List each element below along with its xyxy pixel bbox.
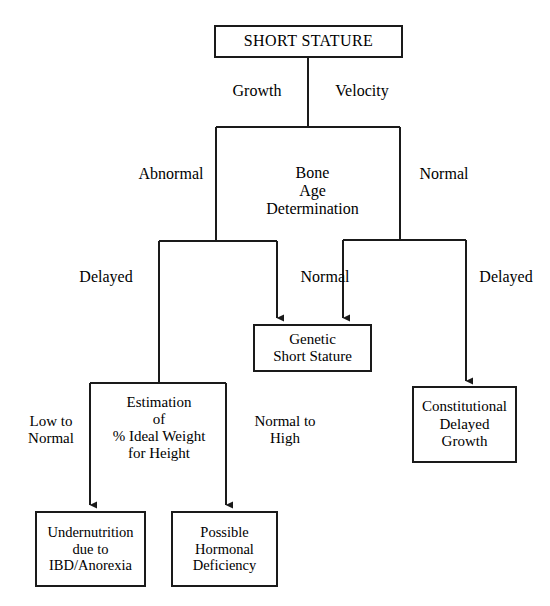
node-short-stature-label: SHORT STATURE	[244, 32, 373, 51]
flowchart-canvas: SHORT STATURE Genetic Short Stature Cons…	[0, 0, 550, 606]
node-constitutional-delayed-growth[interactable]: Constitutional Delayed Growth	[412, 386, 517, 463]
node-possible-hormonal-deficiency-label: Possible Hormonal Deficiency	[193, 524, 257, 574]
edge-label-growth: Growth	[212, 82, 302, 100]
edge-label-delayed-left: Delayed	[62, 268, 150, 286]
decision-estimation-ideal-weight: Estimation of % Ideal Weight for Height	[96, 394, 222, 462]
node-constitutional-delayed-growth-label: Constitutional Delayed Growth	[422, 398, 507, 450]
edge-label-normal-middle: Normal	[284, 268, 366, 286]
decision-bone-age-determination: Bone Age Determination	[250, 164, 375, 219]
edge-label-velocity: Velocity	[316, 82, 408, 100]
node-undernutrition-label: Undernutrition due to IBD/Anorexia	[47, 524, 133, 574]
edge-label-delayed-right: Delayed	[463, 268, 549, 286]
edge-label-abnormal: Abnormal	[125, 165, 217, 183]
node-possible-hormonal-deficiency[interactable]: Possible Hormonal Deficiency	[171, 511, 278, 587]
edge-label-normal-to-high: Normal to High	[233, 413, 337, 447]
node-genetic-short-stature[interactable]: Genetic Short Stature	[253, 324, 372, 372]
node-genetic-short-stature-label: Genetic Short Stature	[273, 331, 352, 366]
node-short-stature[interactable]: SHORT STATURE	[214, 25, 403, 58]
edge-label-normal-right: Normal	[402, 165, 486, 183]
node-undernutrition[interactable]: Undernutrition due to IBD/Anorexia	[35, 511, 146, 587]
edge-label-low-to-normal: Low to Normal	[8, 413, 94, 447]
